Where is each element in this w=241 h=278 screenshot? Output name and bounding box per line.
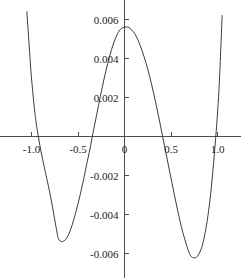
chart-plot-area: -1.0-0.500.51.0 0.0060.0040.002-0.002-0.… [0,0,241,278]
y-tick-label: -0.004 [0,209,119,220]
chart-canvas [0,0,241,278]
y-tick-label: 0.006 [0,14,119,25]
x-tick-label: -0.5 [69,144,86,155]
y-tick-label: -0.006 [0,248,119,259]
y-tick-label: 0.004 [0,53,119,64]
x-tick-label: 0.5 [164,144,178,155]
y-tick-label: -0.002 [0,170,119,181]
x-tick-label: 1.0 [211,144,225,155]
x-tick-label: 0 [122,144,128,155]
y-tick-label: 0.002 [0,92,119,103]
x-tick-label: -1.0 [23,144,40,155]
